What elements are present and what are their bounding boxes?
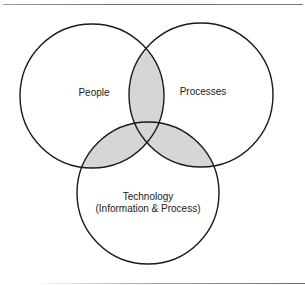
label-technology-subtitle: (Information & Process) xyxy=(95,203,200,215)
label-technology: Technology xyxy=(123,191,174,203)
label-people: People xyxy=(78,87,109,99)
label-processes: Processes xyxy=(180,86,227,98)
venn-diagram xyxy=(0,0,305,285)
